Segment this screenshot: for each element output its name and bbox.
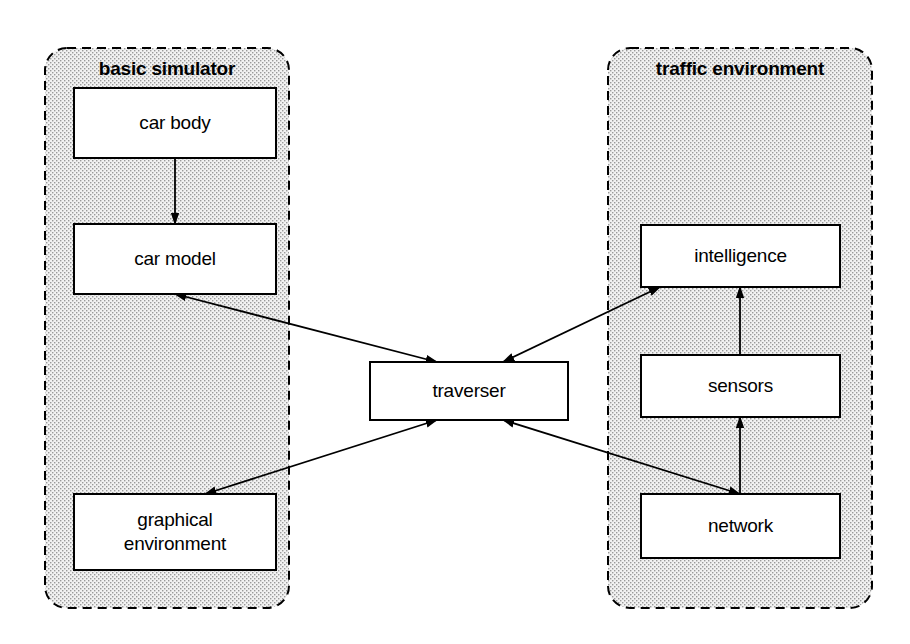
node-box-car-model[interactable] <box>74 224 276 294</box>
node-box-traverser[interactable] <box>370 362 568 420</box>
architecture-diagram: basic simulatortraffic environmentcar bo… <box>0 0 910 644</box>
node-box-intelligence[interactable] <box>641 225 840 287</box>
diagram-canvas <box>0 0 910 644</box>
node-box-graphical-environment[interactable] <box>74 494 276 570</box>
node-box-network[interactable] <box>641 494 840 558</box>
node-box-car-body[interactable] <box>74 88 276 158</box>
node-box-sensors[interactable] <box>641 355 840 417</box>
